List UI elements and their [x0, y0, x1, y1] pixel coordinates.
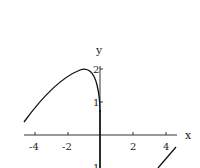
y-tick-label: 1	[93, 162, 99, 168]
y-axis-label: y	[95, 44, 103, 57]
x-tick-label: 2	[130, 141, 136, 152]
y-tick-label: 2	[93, 64, 99, 75]
plot: -4 -2 2 4 2 1 1 x y	[0, 0, 200, 168]
curve-left-branch	[24, 69, 100, 122]
y-tick-label: 1	[93, 97, 99, 108]
x-tick-label: 4	[163, 141, 169, 152]
x-tick-label: -2	[62, 141, 72, 152]
x-axis-label: x	[185, 129, 192, 142]
x-tick-label: -4	[29, 141, 39, 152]
